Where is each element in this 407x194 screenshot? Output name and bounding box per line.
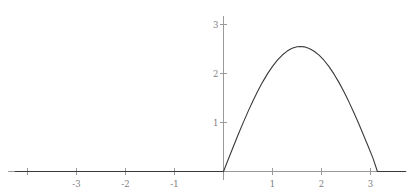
function-plot-svg bbox=[0, 0, 407, 194]
x-tick-label-1: 1 bbox=[270, 180, 275, 189]
x-tick-label-3: 3 bbox=[368, 180, 373, 189]
axes-group bbox=[8, 16, 400, 180]
x-tick-label--1: -1 bbox=[170, 180, 178, 189]
x-tick-label--3: -3 bbox=[72, 180, 80, 189]
x-tick-label--2: -2 bbox=[121, 180, 129, 189]
y-tick-label-3: 3 bbox=[208, 20, 219, 29]
chart-canvas: -3-2-1123 123 bbox=[0, 0, 407, 194]
y-tick-label-2: 2 bbox=[208, 69, 219, 78]
x-tick-label-2: 2 bbox=[319, 180, 324, 189]
y-tick-label-1: 1 bbox=[208, 118, 219, 127]
function-curve bbox=[15, 47, 406, 172]
